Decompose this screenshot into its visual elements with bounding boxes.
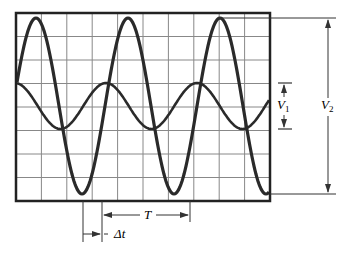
delta-t-label: Δt bbox=[113, 226, 126, 241]
v1-label: V1 bbox=[277, 97, 289, 114]
v2-label: V2 bbox=[321, 97, 333, 114]
oscilloscope-diagram: V1 V2 T Δt bbox=[0, 0, 346, 254]
delta-t-marker bbox=[83, 201, 108, 242]
period-label: T bbox=[144, 207, 152, 222]
